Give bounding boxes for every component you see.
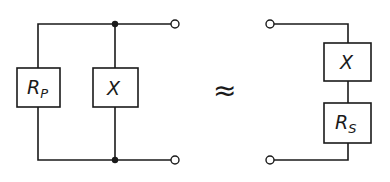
rs-resistor-box: RS (324, 103, 371, 143)
approximately-equal-symbol: ≈ (213, 74, 236, 107)
top-terminal-icon (171, 20, 179, 28)
x-parallel-label: X (106, 77, 121, 99)
bottom-junction-dot (112, 157, 118, 163)
parallel-circuit: RP X (17, 20, 179, 164)
right-bottom-terminal-icon (266, 156, 274, 164)
x-series-label: X (339, 51, 354, 73)
bottom-wire (38, 107, 171, 160)
right-top-terminal-icon (266, 20, 274, 28)
top-junction-dot (112, 21, 118, 27)
circuit-diagram: RP X ≈ X RS (0, 0, 390, 182)
top-wire (38, 24, 171, 68)
series-circuit: X RS (266, 20, 371, 164)
right-top-wire (274, 24, 348, 43)
x-series-reactance-box: X (324, 43, 371, 81)
bottom-terminal-icon (171, 156, 179, 164)
rp-resistor-box: RP (17, 68, 60, 107)
right-bottom-wire (274, 143, 348, 160)
x-parallel-reactance-box: X (93, 68, 138, 107)
